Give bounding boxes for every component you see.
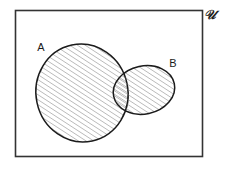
set-a-label: A (37, 41, 45, 53)
universal-set-label: 𝒰 (204, 7, 220, 22)
set-b-label: B (169, 57, 177, 69)
venn-diagram-figure: A B 𝒰 (0, 0, 226, 170)
venn-diagram-canvas: A B 𝒰 (0, 0, 226, 170)
